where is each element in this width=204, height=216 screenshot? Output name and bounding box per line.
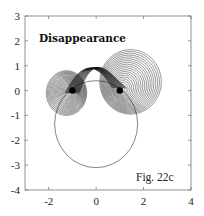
y-tick-label: -4 (11, 184, 21, 196)
x-tick-label: 2 (141, 195, 147, 207)
y-tick-label: 2 (15, 35, 21, 47)
large-circle (55, 81, 138, 168)
y-tick-label: -2 (11, 134, 20, 146)
y-tick-label: 0 (15, 85, 21, 97)
point-left (69, 87, 75, 93)
y-tick-label: 3 (15, 10, 21, 22)
plot-curves (46, 50, 161, 168)
chart-title: Disappearance (39, 32, 126, 44)
x-tick-label: 0 (93, 195, 99, 207)
x-tick-label: -2 (44, 195, 53, 207)
point-right (117, 87, 123, 93)
y-tick-label: 1 (15, 60, 21, 72)
chart-figure: -20243210-1-2-3-4 Disappearance Fig. 22c (0, 0, 204, 216)
y-tick-label: -3 (11, 159, 21, 171)
x-tick-label: 4 (188, 195, 194, 207)
figure-label: Fig. 22c (136, 171, 174, 184)
y-tick-label: -1 (11, 109, 20, 121)
